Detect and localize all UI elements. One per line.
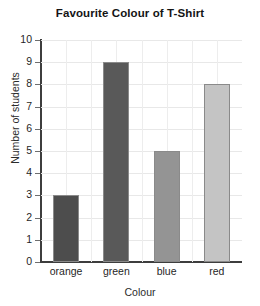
y-tick-mark bbox=[35, 62, 40, 63]
gridline-vertical bbox=[142, 40, 143, 262]
gridline-vertical bbox=[192, 40, 193, 262]
y-tick-label: 10 bbox=[10, 33, 32, 45]
x-tick-label-orange: orange bbox=[41, 265, 91, 277]
bar-red bbox=[204, 84, 230, 262]
y-tick-mark bbox=[35, 40, 40, 41]
y-tick-mark bbox=[35, 173, 40, 174]
y-tick-label: 9 bbox=[10, 55, 32, 67]
y-tick-mark bbox=[35, 107, 40, 108]
y-tick-mark bbox=[35, 129, 40, 130]
x-tick-label-green: green bbox=[91, 265, 141, 277]
bar-green bbox=[103, 62, 129, 262]
y-tick-mark bbox=[35, 218, 40, 219]
y-tick-mark bbox=[35, 262, 40, 263]
x-tick-label-blue: blue bbox=[142, 265, 192, 277]
y-tick-mark bbox=[35, 151, 40, 152]
y-tick-mark bbox=[35, 195, 40, 196]
bar-chart: Favourite Colour of T-Shirt Number of st… bbox=[0, 0, 260, 306]
y-tick-mark bbox=[35, 84, 40, 85]
y-tick-label: 4 bbox=[10, 166, 32, 178]
bar-orange bbox=[53, 195, 79, 262]
y-tick-label: 0 bbox=[10, 255, 32, 267]
y-tick-label: 8 bbox=[10, 77, 32, 89]
x-tick-label-red: red bbox=[192, 265, 242, 277]
gridline-vertical bbox=[91, 40, 92, 262]
y-tick-label: 2 bbox=[10, 211, 32, 223]
x-axis-label: Colour bbox=[38, 286, 242, 298]
y-tick-label: 6 bbox=[10, 122, 32, 134]
y-tick-mark bbox=[35, 240, 40, 241]
plot-area bbox=[41, 40, 242, 262]
chart-title: Favourite Colour of T-Shirt bbox=[0, 7, 260, 19]
y-tick-label: 3 bbox=[10, 188, 32, 200]
y-tick-label: 7 bbox=[10, 100, 32, 112]
bar-blue bbox=[154, 151, 180, 262]
y-tick-label: 1 bbox=[10, 233, 32, 245]
y-tick-label: 5 bbox=[10, 144, 32, 156]
